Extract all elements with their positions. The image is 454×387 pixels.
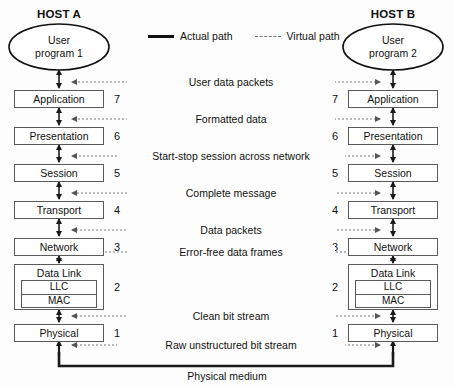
legend: Actual path Virtual path xyxy=(148,30,339,42)
layer-box-right-session[interactable]: Session xyxy=(348,164,438,182)
data-link-title-right: Data Link xyxy=(349,265,437,280)
path-label-error-free-data-frames: Error-free data frames xyxy=(127,246,335,258)
user-program-2-line1: User xyxy=(341,34,445,47)
layer-number-left-1: 1 xyxy=(110,326,124,340)
layer-box-left-session[interactable]: Session xyxy=(14,164,104,182)
osi-model-diagram: HOST A HOST B Actual path Virtual path U… xyxy=(0,0,454,387)
layer-number-left-7: 7 xyxy=(110,92,124,106)
layer-number-left-4: 4 xyxy=(110,203,124,217)
user-program-1-line2: program 1 xyxy=(7,47,111,60)
layer-box-right-network[interactable]: Network xyxy=(348,238,438,256)
user-program-2-line2: program 2 xyxy=(341,47,445,60)
layer-number-left-6: 6 xyxy=(110,129,124,143)
layer-number-right-4: 4 xyxy=(328,203,342,217)
mac-sublayer-left[interactable]: MAC xyxy=(21,294,97,308)
layer-number-right-1: 1 xyxy=(328,326,342,340)
layer-box-left-physical[interactable]: Physical xyxy=(14,324,104,342)
mac-sublayer-right[interactable]: MAC xyxy=(355,294,431,308)
llc-sublayer-right[interactable]: LLC xyxy=(355,280,431,294)
layer-number-right-6: 6 xyxy=(328,129,342,143)
layer-box-right-physical[interactable]: Physical xyxy=(348,324,438,342)
layer-box-right-transport[interactable]: Transport xyxy=(348,201,438,219)
user-program-1-line1: User xyxy=(7,34,111,47)
layer-number-left-2: 2 xyxy=(110,280,124,294)
layer-number-right-5: 5 xyxy=(328,166,342,180)
solid-line-icon xyxy=(148,35,174,38)
path-label-complete-message: Complete message xyxy=(127,187,335,199)
layer-number-right-7: 7 xyxy=(328,92,342,106)
layer-number-left-5: 5 xyxy=(110,166,124,180)
llc-sublayer-left[interactable]: LLC xyxy=(21,280,97,294)
physical-medium-line xyxy=(59,352,393,366)
layer-box-left-data-link[interactable]: Data Link LLC MAC xyxy=(14,264,104,310)
path-label-data-packets: Data packets xyxy=(127,224,335,236)
layer-box-right-presentation[interactable]: Presentation xyxy=(348,127,438,145)
path-label-clean-bit-stream: Clean bit stream xyxy=(127,310,335,322)
host-b-title: HOST B xyxy=(356,8,430,20)
layer-box-left-network[interactable]: Network xyxy=(14,238,104,256)
layer-box-right-data-link[interactable]: Data Link LLC MAC xyxy=(348,264,438,310)
layer-box-left-application[interactable]: Application xyxy=(14,90,104,108)
user-program-1-node: User program 1 xyxy=(7,22,111,72)
legend-actual-path-label: Actual path xyxy=(180,30,233,42)
host-a-title: HOST A xyxy=(22,8,96,20)
layer-box-left-presentation[interactable]: Presentation xyxy=(14,127,104,145)
path-label-user-data-packets: User data packets xyxy=(127,76,335,88)
user-program-2-node: User program 2 xyxy=(341,22,445,72)
data-link-title-left: Data Link xyxy=(15,265,103,280)
legend-virtual-path-label: Virtual path xyxy=(287,30,340,42)
physical-medium-label: Physical medium xyxy=(127,370,327,382)
layer-box-left-transport[interactable]: Transport xyxy=(14,201,104,219)
layer-number-right-2: 2 xyxy=(328,280,342,294)
layer-number-left-3: 3 xyxy=(110,240,124,254)
layer-box-right-application[interactable]: Application xyxy=(348,90,438,108)
dotted-line-icon xyxy=(255,36,281,37)
path-label-start-stop-session: Start-stop session across network xyxy=(117,150,345,162)
path-label-raw-unstructured-bit-stream: Raw unstructured bit stream xyxy=(117,339,345,351)
path-label-formatted-data: Formatted data xyxy=(127,113,335,125)
